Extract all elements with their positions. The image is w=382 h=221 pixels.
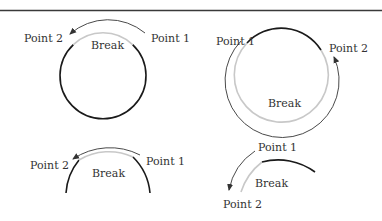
break-arc [234,43,328,122]
break-arc [79,152,133,160]
label-point-2: Point 2 [24,32,63,45]
label-break: Break [92,167,125,180]
panel-full-circle-ccw: Point 2 Point 1 Break [24,20,190,119]
label-point-2: Point 2 [223,198,262,211]
label-break: Break [255,177,288,190]
direction-arrow [229,151,255,190]
diagram: Point 2 Point 1 Break Point 1 Point 2 Br… [0,0,382,221]
break-diagram-svg: Point 2 Point 1 Break Point 1 Point 2 Br… [0,0,382,221]
label-point-1: Point 1 [258,141,297,154]
label-point-1: Point 1 [151,32,190,45]
circle-solid-arc [60,45,146,119]
label-point-1: Point 1 [216,35,255,48]
label-break: Break [91,39,124,52]
panel-full-circle-cw: Point 1 Point 2 Break [216,28,368,137]
arc-solid [262,160,315,172]
circle-solid-arc [247,28,321,50]
panel-arc-cw: Point 1 Break Point 2 [223,141,315,211]
direction-arrow [225,41,339,138]
direction-arrow [70,20,145,34]
label-point-1: Point 1 [146,155,185,168]
label-point-2: Point 2 [30,159,69,172]
panel-arc-ccw: Point 2 Point 1 Break [30,148,185,193]
label-point-2: Point 2 [329,42,368,55]
label-break: Break [268,97,301,110]
